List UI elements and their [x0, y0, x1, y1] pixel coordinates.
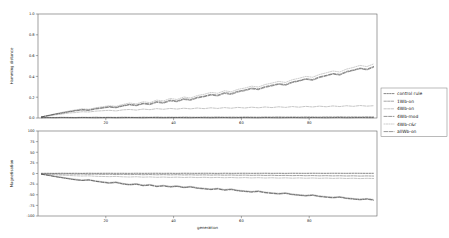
x-tick-label: 80: [307, 219, 312, 223]
y-tick-label: 0.6: [29, 54, 35, 58]
dual-panel-line-chart: 0.00.20.40.60.81.020406080Hamming distan…: [0, 0, 449, 238]
x-tick-label: 60: [239, 121, 244, 125]
legend-label: 4Wb-on: [397, 106, 414, 111]
y-tick-label: -75: [29, 204, 35, 208]
y-tick-label: 0.4: [29, 75, 35, 79]
legend-label: 4Wb-c&r: [397, 122, 416, 127]
y-tick-label: 75: [30, 140, 35, 144]
legend-label: 1Wb-on: [397, 99, 414, 104]
x-tick-label: 40: [171, 121, 176, 125]
legend-label: 4Wb-mod: [397, 114, 418, 119]
x-tick-label: 20: [104, 219, 109, 223]
y-tick-label: -100: [26, 214, 35, 218]
series-line-4wb-c-r: [41, 174, 373, 199]
x-tick-label: 20: [104, 121, 109, 125]
series-line-4wb-mod: [41, 66, 373, 117]
y-tick-label: 1.0: [29, 12, 35, 16]
chart-legend: control rule1Wb-on4Wb-on4Wb-mod4Wb-c&ral…: [381, 88, 447, 137]
legend-label: control rule: [397, 91, 422, 96]
x-tick-label: 80: [307, 121, 312, 125]
legend-label: allWb-on: [397, 129, 417, 134]
x-axis-title: generation: [197, 225, 219, 230]
x-tick-label: 60: [239, 219, 244, 223]
hamming-distance-panel: 0.00.20.40.60.81.020406080Hamming distan…: [9, 12, 377, 125]
plot-frame: [38, 14, 377, 118]
y-tick-label: 0.2: [29, 96, 35, 100]
y-axis-title: Hamming distance: [9, 47, 14, 84]
y-tick-label: 100: [28, 129, 36, 133]
y-tick-label: 50: [30, 151, 35, 155]
series-line-1wb-on: [41, 174, 373, 176]
series-line-4wb-c-r: [41, 64, 373, 117]
series-line-4wb-on: [41, 174, 373, 179]
magnetisation-panel: -100-75-50-25025507510020406080Magnetisa…: [9, 129, 377, 230]
y-tick-label: -50: [29, 193, 36, 197]
y-tick-label: 0: [32, 172, 35, 176]
y-tick-label: -25: [29, 182, 35, 186]
y-tick-label: 0.8: [29, 33, 35, 37]
y-tick-label: 0.0: [29, 116, 35, 120]
series-line-4wb-on: [41, 106, 373, 117]
y-axis-title: Magnetisation: [9, 159, 14, 187]
y-tick-label: 25: [30, 161, 35, 165]
x-tick-label: 40: [171, 219, 176, 223]
figure-canvas: 0.00.20.40.60.81.020406080Hamming distan…: [0, 0, 449, 238]
